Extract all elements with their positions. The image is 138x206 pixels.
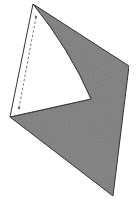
fold-line-end-dot — [18, 107, 20, 109]
folded-shape-diagram — [0, 0, 138, 206]
fold-line-start-dot — [35, 16, 37, 18]
